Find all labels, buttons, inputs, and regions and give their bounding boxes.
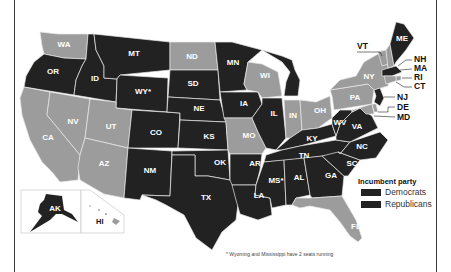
- hawaii-island-small: [105, 213, 107, 215]
- legend-title: Incumbent party: [358, 177, 416, 186]
- label-nd: ND: [186, 52, 198, 61]
- label-hi: HI: [96, 217, 104, 226]
- label-mi: MI: [301, 83, 310, 92]
- hawaii-island-small: [89, 205, 91, 207]
- label-wy: WY*: [135, 87, 152, 96]
- label-mt: MT: [128, 49, 140, 58]
- state-ct[interactable]: [384, 76, 396, 84]
- label-al: AL: [294, 173, 305, 182]
- label-ca: CA: [42, 133, 54, 142]
- state-me[interactable]: [390, 22, 414, 66]
- legend-swatch-democrats: [361, 189, 381, 196]
- legend-item-republicans: Republicans: [361, 199, 432, 209]
- us-map: WA OR CA NV ID MT WY* UT AZ CO NM ND SD …: [0, 0, 451, 272]
- label-il: IL: [270, 109, 277, 118]
- label-az: AZ: [99, 159, 110, 168]
- leader-ct: [396, 82, 412, 87]
- state-ri[interactable]: [396, 76, 401, 81]
- label-ct: CT: [414, 81, 426, 91]
- label-ms: MS*: [268, 176, 284, 185]
- label-tx: TX: [201, 193, 212, 202]
- label-nv: NV: [67, 117, 79, 126]
- label-la: LA: [254, 191, 265, 200]
- label-md: MD: [397, 112, 410, 122]
- legend-item-democrats: Democrats: [361, 187, 426, 197]
- label-me: ME: [396, 34, 409, 43]
- label-sd: SD: [187, 79, 198, 88]
- label-ar: AR: [249, 159, 261, 168]
- label-ut: UT: [106, 122, 117, 131]
- label-fl: FL: [351, 222, 361, 231]
- label-ky: KY: [306, 134, 318, 143]
- leader-md: [374, 116, 395, 117]
- label-sc: SC: [346, 159, 357, 168]
- state-fl[interactable]: [292, 196, 362, 242]
- footnote: * Wyoming and Mississippi have 2 seats r…: [226, 251, 333, 257]
- legend-label-republicans: Republicans: [385, 199, 432, 209]
- leader-ma: [400, 69, 412, 70]
- hawaii-island-small: [98, 209, 100, 211]
- label-tn: TN: [299, 151, 310, 160]
- label-de: DE: [397, 102, 409, 112]
- label-or: OR: [47, 67, 59, 76]
- label-ia: IA: [240, 99, 248, 108]
- leader-de: [378, 107, 395, 112]
- label-ok: OK: [214, 158, 226, 167]
- state-nj[interactable]: [374, 88, 384, 106]
- label-oh: OH: [314, 106, 326, 115]
- legend-swatch-republicans: [361, 201, 381, 208]
- label-wa: WA: [58, 40, 71, 49]
- label-ne: NE: [193, 104, 205, 113]
- label-id: ID: [91, 74, 99, 83]
- leader-nh: [398, 60, 412, 66]
- label-nm: NM: [144, 166, 157, 175]
- label-ks: KS: [203, 132, 215, 141]
- label-nj: NJ: [397, 92, 408, 102]
- label-ak: AK: [49, 204, 61, 213]
- label-ga: GA: [325, 171, 337, 180]
- label-va: VA: [352, 122, 363, 131]
- label-wi: WI: [260, 71, 270, 80]
- label-mo: MO: [243, 131, 256, 140]
- label-pa: PA: [350, 93, 361, 102]
- legend-label-democrats: Democrats: [385, 187, 426, 197]
- label-nc: NC: [356, 142, 368, 151]
- state-az[interactable]: [78, 138, 128, 198]
- label-co: CO: [150, 128, 162, 137]
- label-vt: VT: [357, 41, 369, 51]
- label-wv: WV: [334, 118, 348, 127]
- label-in: IN: [289, 111, 297, 120]
- label-ny: NY: [363, 72, 375, 81]
- label-mn: MN: [227, 58, 240, 67]
